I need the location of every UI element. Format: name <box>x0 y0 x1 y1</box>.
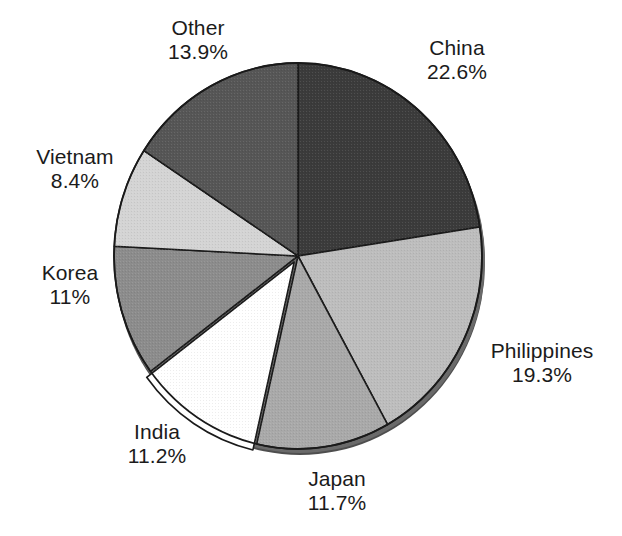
pie-label-korea: Korea 11% <box>10 261 130 310</box>
pie-label-japan-name: Japan <box>272 467 402 491</box>
pie-label-korea-name: Korea <box>10 261 130 285</box>
pie-label-china-value: 22.6% <box>392 60 522 84</box>
pie-label-china-name: China <box>392 36 522 60</box>
pie-label-other-name: Other <box>133 16 263 40</box>
pie-label-vietnam-value: 8.4% <box>6 169 144 193</box>
pie-label-india: India 11.2% <box>92 420 222 469</box>
pie-label-vietnam-name: Vietnam <box>6 145 144 169</box>
pie-label-china: China 22.6% <box>392 36 522 85</box>
pie-label-india-value: 11.2% <box>92 444 222 468</box>
pie-label-vietnam: Vietnam 8.4% <box>6 145 144 194</box>
pie-label-japan: Japan 11.7% <box>272 467 402 516</box>
pie-chart-figure: Other 13.9% China 22.6% Philippines 19.3… <box>0 0 622 536</box>
pie-label-other: Other 13.9% <box>133 16 263 65</box>
pie-label-philippines: Philippines 19.3% <box>462 339 622 388</box>
pie-label-philippines-value: 19.3% <box>462 363 622 387</box>
pie-label-philippines-name: Philippines <box>462 339 622 363</box>
halftone-texture <box>114 63 482 449</box>
pie-label-korea-value: 11% <box>10 285 130 309</box>
pie-label-other-value: 13.9% <box>133 40 263 64</box>
pie-label-japan-value: 11.7% <box>272 491 402 515</box>
pie-label-india-name: India <box>92 420 222 444</box>
